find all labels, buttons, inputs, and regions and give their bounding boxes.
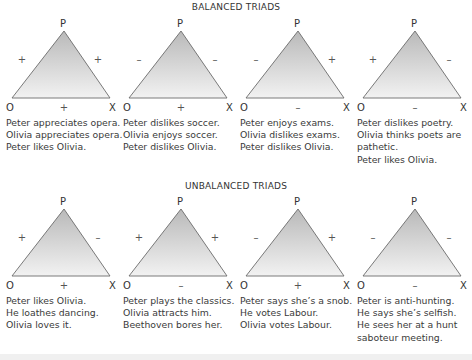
balanced-triad-1: POX+++Peter appreciates opera.Olivia app… [6, 18, 124, 178]
vertex-label-p: P [60, 18, 66, 29]
bottom-band [0, 354, 472, 360]
vertex-label-o: O [240, 102, 248, 113]
vertex-label-o: O [6, 280, 14, 291]
description-line: Olivia loves it. [6, 319, 99, 331]
vertex-label-p: P [294, 196, 300, 207]
sign-p-x: – [443, 232, 455, 243]
vertex-label-o: O [6, 102, 14, 113]
sign-p-o: – [250, 232, 262, 243]
description-line: Olivia dislikes exams. [240, 129, 340, 141]
description-line: Peter enjoys exams. [240, 117, 340, 129]
triad-description: Peter plays the classics.Olivia attracts… [123, 295, 234, 332]
balanced-triad-4: POX+––Peter dislikes poetry.Olivia think… [357, 18, 472, 178]
description-line: Peter dislikes soccer. [123, 117, 220, 129]
description-line: Olivia appreciates opera. [6, 129, 122, 141]
vertex-label-x: X [343, 102, 350, 113]
description-line: Peter dislikes Olivia. [123, 141, 220, 153]
unbalanced-triad-3: POX–++Peter says she’s a snob.He votes L… [240, 196, 358, 356]
description-line: Peter says she’s a snob. [240, 295, 352, 307]
vertex-label-o: O [123, 102, 131, 113]
sign-p-x: + [92, 54, 104, 65]
sign-o-x: + [292, 280, 304, 291]
vertex-label-x: X [460, 102, 467, 113]
vertex-label-x: X [109, 102, 116, 113]
description-line: He sees her at a hunt [357, 319, 457, 331]
unbalanced-triad-4: POX–––Peter is anti-hunting.He says she’… [357, 196, 472, 356]
sign-p-o: + [16, 54, 28, 65]
vertex-label-o: O [357, 280, 365, 291]
description-line: pathetic. [357, 141, 461, 153]
vertex-label-p: P [411, 196, 417, 207]
description-line: saboteur meeting. [357, 332, 457, 344]
sign-o-x: – [409, 280, 421, 291]
section-heading-unbalanced: UNBALANCED TRIADS [0, 181, 472, 191]
vertex-label-p: P [177, 196, 183, 207]
balanced-triad-3: POX–+–Peter enjoys exams.Olivia dislikes… [240, 18, 358, 178]
description-line: Peter dislikes Olivia. [240, 141, 340, 153]
sign-p-x: + [326, 54, 338, 65]
description-line: Olivia attracts him. [123, 307, 234, 319]
description-line: Peter dislikes poetry. [357, 117, 461, 129]
description-line: Olivia thinks poets are [357, 129, 461, 141]
triad-description: Peter dislikes poetry.Olivia thinks poet… [357, 117, 461, 166]
sign-p-o: – [133, 54, 145, 65]
description-line: Olivia votes Labour. [240, 319, 352, 331]
vertex-label-x: X [460, 280, 467, 291]
description-line: Olivia enjoys soccer. [123, 129, 220, 141]
vertex-label-p: P [294, 18, 300, 29]
sign-p-x: – [209, 54, 221, 65]
unbalanced-triad-2: POX++–Peter plays the classics.Olivia at… [123, 196, 241, 356]
sign-p-x: + [326, 232, 338, 243]
vertex-label-x: X [109, 280, 116, 291]
description-line: Peter appreciates opera. [6, 117, 122, 129]
vertex-label-o: O [123, 280, 131, 291]
vertex-label-x: X [226, 280, 233, 291]
vertex-label-p: P [411, 18, 417, 29]
unbalanced-triad-1: POX+–+Peter likes Olivia.He loathes danc… [6, 196, 124, 356]
balanced-triad-2: POX––+Peter dislikes soccer.Olivia enjoy… [123, 18, 241, 178]
vertex-label-p: P [60, 196, 66, 207]
sign-p-x: + [209, 232, 221, 243]
vertex-label-p: P [177, 18, 183, 29]
description-line: Peter is anti-hunting. [357, 295, 457, 307]
triad-description: Peter is anti-hunting.He says she’s self… [357, 295, 457, 344]
triad-description: Peter says she’s a snob.He votes Labour.… [240, 295, 352, 332]
description-line: He says she’s selfish. [357, 307, 457, 319]
sign-o-x: + [58, 102, 70, 113]
sign-o-x: – [409, 102, 421, 113]
sign-p-o: + [16, 232, 28, 243]
triad-description: Peter appreciates opera.Olivia appreciat… [6, 117, 122, 154]
sign-o-x: + [58, 280, 70, 291]
vertex-label-x: X [343, 280, 350, 291]
triad-description: Peter enjoys exams.Olivia dislikes exams… [240, 117, 340, 154]
sign-p-x: – [92, 232, 104, 243]
sign-p-o: + [367, 54, 379, 65]
description-line: Peter plays the classics. [123, 295, 234, 307]
triad-description: Peter likes Olivia.He loathes dancing.Ol… [6, 295, 99, 332]
description-line: Peter likes Olivia. [6, 141, 122, 153]
section-heading-balanced: BALANCED TRIADS [0, 2, 472, 12]
sign-o-x: + [175, 102, 187, 113]
sign-o-x: – [292, 102, 304, 113]
vertex-label-o: O [240, 280, 248, 291]
triad-description: Peter dislikes soccer.Olivia enjoys socc… [123, 117, 220, 154]
sign-p-o: – [250, 54, 262, 65]
description-line: He loathes dancing. [6, 307, 99, 319]
vertex-label-o: O [357, 102, 365, 113]
description-line: Peter likes Olivia. [6, 295, 99, 307]
sign-p-x: – [443, 54, 455, 65]
description-line: Beethoven bores her. [123, 319, 234, 331]
sign-p-o: – [367, 232, 379, 243]
sign-o-x: – [175, 280, 187, 291]
description-line: Peter likes Olivia. [357, 154, 461, 166]
description-line: He votes Labour. [240, 307, 352, 319]
vertex-label-x: X [226, 102, 233, 113]
sign-p-o: + [133, 232, 145, 243]
